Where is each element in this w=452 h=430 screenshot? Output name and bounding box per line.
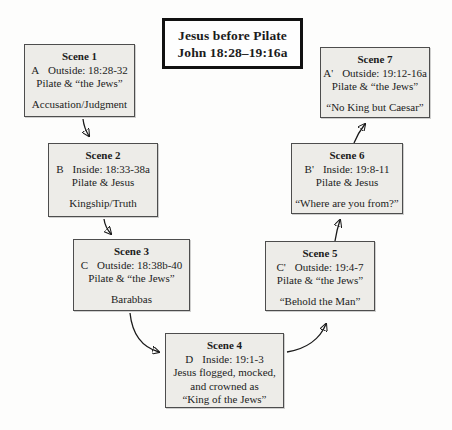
scene-box-7: Scene 7 A'Outside: 19:12-16a Pilate & “t… (320, 47, 430, 118)
scene-1-title: Scene 1 (25, 50, 134, 64)
scene-7-title: Scene 7 (321, 53, 429, 67)
scene-2-title: Scene 2 (49, 149, 157, 163)
scene-1-setting: Outside: 18:28-32 (48, 64, 128, 76)
scene-1-reference: AOutside: 18:28-32 (25, 64, 134, 78)
diagram-canvas: Jesus before Pilate John 18:28–19:16a Sc… (0, 0, 452, 430)
scene-5-participants: Pilate & “the Jews” (266, 274, 374, 288)
scene-5-setting: Outside: 19:4-7 (295, 261, 364, 273)
scene-1-marker: A (31, 64, 39, 78)
scene-box-3: Scene 3 COutside: 18:38b-40 Pilate & “th… (73, 239, 190, 311)
scene-box-1: Scene 1 AOutside: 18:28-32 Pilate & “the… (24, 44, 135, 117)
diagram-title-line1: Jesus before Pilate (178, 27, 287, 44)
scene-5-marker: C' (276, 261, 285, 275)
arrow-scene4-to-scene5 (287, 324, 326, 352)
scene-box-5: Scene 5 C'Outside: 19:4-7 Pilate & “the … (265, 241, 375, 311)
scene-box-4: Scene 4 DInside: 19:1-3 Jesus flogged, m… (165, 333, 284, 408)
scene-6-reference: B'Inside: 19:8-11 (292, 163, 402, 177)
scene-1-participants: Pilate & “the Jews” (25, 77, 134, 91)
scene-4-participants-2: and crowned as (166, 380, 283, 394)
scene-5-reference: C'Outside: 19:4-7 (266, 261, 374, 275)
scene-4-setting: Inside: 19:1-3 (202, 353, 263, 365)
scene-2-setting: Inside: 18:33-38a (73, 163, 150, 175)
scene-3-marker: C (81, 259, 88, 273)
scene-4-theme: “King of the Jews” (166, 393, 283, 407)
scene-4-participants: Jesus flogged, mocked, (166, 366, 283, 380)
scene-3-setting: Outside: 18:38b-40 (97, 259, 182, 271)
scene-6-setting: Inside: 19:8-11 (323, 163, 390, 175)
scene-4-reference: DInside: 19:1-3 (166, 353, 283, 367)
scene-7-participants: Pilate & “the Jews” (321, 80, 429, 94)
arrow-scene3-to-scene4 (130, 313, 159, 352)
scene-box-6: Scene 6 B'Inside: 19:8-11 Pilate & Jesus… (291, 143, 403, 214)
scene-6-theme: “Where are you from?” (292, 197, 402, 211)
scene-3-theme: Barabbas (74, 293, 189, 307)
scene-2-theme: Kingship/Truth (49, 197, 157, 211)
diagram-title-line2: John 18:28–19:16a (177, 44, 287, 61)
scene-2-participants: Pilate & Jesus (49, 176, 157, 190)
arrow-scene2-to-scene3 (104, 219, 111, 234)
scene-box-2: Scene 2 BInside: 18:33-38a Pilate & Jesu… (48, 143, 158, 217)
scene-4-marker: D (185, 353, 193, 367)
scene-7-marker: A' (323, 67, 333, 81)
scene-7-reference: A'Outside: 19:12-16a (321, 67, 429, 81)
arrow-scene1-to-scene2 (83, 119, 89, 136)
scene-7-setting: Outside: 19:12-16a (342, 67, 427, 79)
scene-2-marker: B (56, 163, 63, 177)
diagram-title-box: Jesus before Pilate John 18:28–19:16a (162, 18, 303, 69)
arrow-scene6-to-scene7 (354, 124, 365, 143)
scene-3-title: Scene 3 (74, 245, 189, 259)
scene-2-reference: BInside: 18:33-38a (49, 163, 157, 177)
scene-5-title: Scene 5 (266, 247, 374, 261)
scene-3-reference: COutside: 18:38b-40 (74, 259, 189, 273)
scene-6-participants: Pilate & Jesus (292, 176, 402, 190)
scene-6-marker: B' (305, 163, 314, 177)
scene-6-title: Scene 6 (292, 149, 402, 163)
scene-3-participants: Pilate & “the Jews” (74, 272, 189, 286)
arrow-scene5-to-scene6 (335, 220, 340, 241)
scene-4-title: Scene 4 (166, 339, 283, 353)
scene-7-theme: “No King but Caesar” (321, 101, 429, 115)
scene-5-theme: “Behold the Man” (266, 295, 374, 309)
scene-1-theme: Accusation/Judgment (25, 98, 134, 112)
